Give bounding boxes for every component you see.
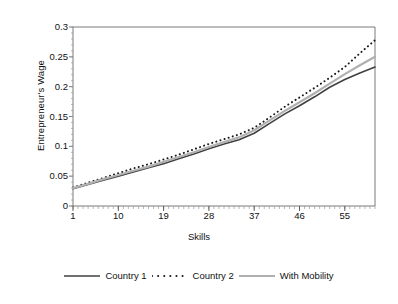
x-axis-tick-label: 19 — [158, 210, 169, 221]
x-axis-tick-label: 28 — [204, 210, 215, 221]
chart-figure: Entrepreneur's Wage 00.050.10.150.20.250… — [0, 0, 398, 304]
series-line-country-2 — [73, 40, 375, 187]
legend-label-country-2: Country 2 — [193, 270, 234, 281]
legend-label-with-mobility: With Mobility — [280, 270, 334, 281]
x-axis-tick-label: 46 — [294, 210, 305, 221]
plot-area — [0, 0, 398, 304]
legend-item-country-2: Country 2 — [152, 270, 234, 281]
legend-swatch-country-2 — [152, 271, 188, 281]
legend-swatch-with-mobility — [239, 271, 275, 281]
chart-legend: Country 1 Country 2 With Mobility — [0, 270, 398, 281]
series-line-with-mobility — [73, 57, 375, 188]
legend-label-country-1: Country 1 — [105, 270, 146, 281]
legend-swatch-country-1 — [64, 271, 100, 281]
x-axis-tick-label: 55 — [340, 210, 351, 221]
x-axis-title: Skills — [0, 231, 398, 242]
x-axis-tick-label: 37 — [249, 210, 260, 221]
series-line-country-1 — [73, 67, 375, 189]
plot-frame — [73, 27, 375, 206]
x-axis-tick-label: 1 — [70, 210, 75, 221]
legend-item-country-1: Country 1 — [64, 270, 146, 281]
x-axis-tick-label: 10 — [113, 210, 124, 221]
legend-item-with-mobility: With Mobility — [239, 270, 334, 281]
